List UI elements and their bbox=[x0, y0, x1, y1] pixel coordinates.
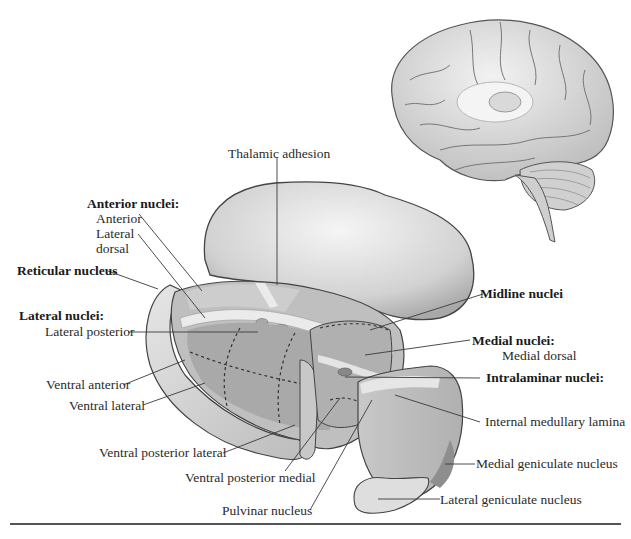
label-intralaminar-nuclei: Intralaminar nuclei: bbox=[486, 370, 604, 386]
label-ventral-posterior-lateral: Ventral posterior lateral bbox=[99, 445, 226, 461]
bottom-rule bbox=[10, 523, 621, 525]
label-anterior-nuclei: Anterior nuclei: bbox=[87, 196, 179, 212]
label-ventral-lateral: Ventral lateral bbox=[69, 398, 145, 414]
label-midline-nuclei: Midline nuclei bbox=[480, 286, 563, 302]
label-lateral-geniculate-nucleus: Lateral geniculate nucleus bbox=[440, 492, 582, 508]
label-ventral-posterior-medial: Ventral posterior medial bbox=[185, 470, 315, 486]
label-thalamic-adhesion: Thalamic adhesion bbox=[228, 146, 330, 162]
label-medial-geniculate-nucleus: Medial geniculate nucleus bbox=[476, 456, 618, 472]
label-medial-nuclei: Medial nuclei: bbox=[472, 333, 555, 349]
label-lateral-posterior: Lateral posterior bbox=[45, 324, 135, 340]
label-lateral-dorsal-line2: dorsal bbox=[96, 241, 129, 257]
label-ventral-anterior: Ventral anterior bbox=[46, 377, 130, 393]
label-lateral-nuclei: Lateral nuclei: bbox=[19, 308, 104, 324]
label-pulvinar-nucleus: Pulvinar nucleus bbox=[222, 503, 312, 519]
label-internal-medullary-lamina: Internal medullary lamina bbox=[485, 414, 625, 430]
label-lateral-dorsal-line1: Lateral bbox=[96, 226, 134, 242]
label-anterior: Anterior bbox=[96, 211, 142, 227]
label-reticular-nucleus: Reticular nucleus bbox=[17, 263, 118, 279]
label-medial-dorsal: Medial dorsal bbox=[502, 348, 577, 364]
